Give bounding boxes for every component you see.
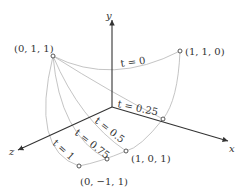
point-011	[51, 54, 55, 58]
point-101	[124, 149, 128, 153]
point-101-label: (1, 0, 1)	[131, 153, 171, 164]
y-axis-label: y	[105, 10, 112, 21]
curve-t0-label: t = 0	[120, 55, 146, 69]
point-x-axis	[161, 117, 165, 121]
z-axis-label: z	[8, 146, 15, 157]
curve-t0	[53, 51, 180, 70]
point-011-label: (0, 1, 1)	[14, 43, 54, 54]
point-110-label: (1, 1, 0)	[185, 46, 225, 57]
curve-t1-label: t = 1	[51, 137, 77, 162]
point-0m11	[77, 164, 81, 168]
x-axis-label: x	[229, 143, 235, 154]
point-110	[178, 49, 182, 53]
x-axis	[112, 107, 228, 141]
geodesic-diagram: y x z (0, 1, 1) (1, 1, 0) (1, 0, 1) (0, …	[0, 0, 242, 191]
point-0m11-label: (0, −1, 1)	[80, 176, 128, 187]
